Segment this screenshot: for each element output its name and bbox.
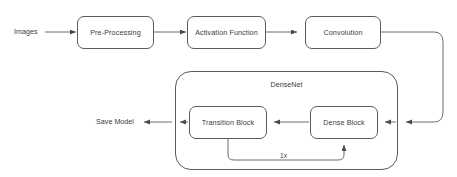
node-activation-function-label: Activation Function bbox=[195, 28, 258, 37]
node-transition-block[interactable]: Transition Block bbox=[189, 106, 267, 139]
loop-label-1x: 1x bbox=[280, 152, 287, 159]
node-dense-block[interactable]: Dense Block bbox=[310, 106, 378, 139]
node-activation-function[interactable]: Activation Function bbox=[187, 16, 266, 49]
node-transition-block-label: Transition Block bbox=[202, 118, 254, 127]
group-densenet-label: DenseNet bbox=[175, 80, 398, 89]
diagram-canvas: Images Save Model Pre-Processing Activat… bbox=[0, 0, 457, 177]
node-pre-processing[interactable]: Pre-Processing bbox=[77, 16, 154, 49]
node-pre-processing-label: Pre-Processing bbox=[90, 28, 141, 37]
output-label: Save Model bbox=[96, 117, 134, 126]
node-convolution-label: Convolution bbox=[323, 28, 362, 37]
node-dense-block-label: Dense Block bbox=[323, 118, 364, 127]
input-label: Images bbox=[14, 27, 38, 36]
node-convolution[interactable]: Convolution bbox=[305, 16, 381, 49]
